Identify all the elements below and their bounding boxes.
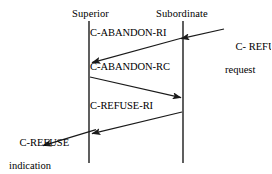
lifeline-label-subordinate: Subordinate [156, 8, 208, 19]
message-label-c-abandon-ri: C-ABANDON-RI [90, 27, 166, 38]
message-label-c-refuse-ri: C-REFUSE-RI [90, 100, 153, 111]
annotation-c-refuse-request-line2: request [225, 64, 271, 75]
sequence-diagram: Superior Subordinate C-ABANDON-RI C-ABAN… [0, 0, 271, 174]
annotation-c-refuse-request: C- REFUSE request [225, 30, 271, 98]
message-arrow-c-refuse-ri [92, 112, 182, 134]
message-arrow-c-abandon-rc [90, 77, 181, 98]
lifeline-label-superior: Superior [72, 8, 109, 19]
message-arrow-c-abandon-ri [92, 38, 182, 63]
annotation-c-refuse-indication: C-REFUSE indication [9, 126, 69, 174]
external-arrow-c-refuse-request [181, 29, 224, 39]
annotation-c-refuse-indication-line1: C-REFUSE [20, 137, 70, 148]
message-label-c-abandon-rc: C-ABANDON-RC [90, 61, 170, 72]
annotation-c-refuse-indication-line2: indication [9, 160, 69, 171]
annotation-c-refuse-request-line1: C- REFUSE [236, 41, 272, 52]
